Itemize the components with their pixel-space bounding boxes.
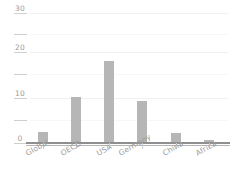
- ytick-mark-15: [14, 74, 27, 75]
- bar-chart: 30 20 10 0 Global OECD USA Germany China…: [0, 0, 234, 191]
- ytick-label-30: 30: [12, 4, 28, 13]
- ytick-mark-10: [14, 98, 27, 99]
- gridline-20: [30, 52, 228, 53]
- bar-usa: [104, 61, 114, 143]
- ytick-mark-20: [14, 52, 27, 53]
- gridline-5: [30, 120, 228, 121]
- bar-oecd: [71, 97, 81, 143]
- ytick-mark-5: [14, 120, 27, 121]
- gridline-25: [30, 34, 228, 35]
- ytick-mark-25: [14, 34, 27, 35]
- gridline-10: [30, 98, 228, 99]
- gridline-15: [30, 74, 228, 75]
- ytick-mark-30: [14, 13, 27, 14]
- gridline-30: [30, 13, 228, 14]
- ytick-label-10: 10: [12, 89, 28, 98]
- ytick-label-20: 20: [12, 43, 28, 52]
